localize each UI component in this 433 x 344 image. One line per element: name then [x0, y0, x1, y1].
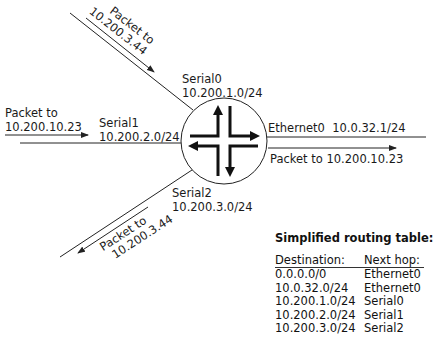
next-hop-cell: Ethernet0: [364, 268, 424, 282]
serial2-label: Serial2 10.200.3.0/24: [172, 186, 253, 214]
table-row: 10.200.1.0/24 Serial0: [275, 295, 424, 309]
routing-table-header: Destination: Next hop:: [275, 254, 424, 268]
serial1-label: Serial1 10.200.2.0/24: [99, 116, 180, 144]
table-row: 10.0.32.0/24 Ethernet0: [275, 282, 424, 296]
router-icon: [181, 98, 267, 184]
next-hop-cell: Ethernet0: [364, 282, 424, 296]
packet-label-left-line1: Packet to: [5, 106, 82, 120]
serial0-name: Serial0: [182, 72, 263, 86]
serial1-network: 10.200.2.0/24: [99, 130, 180, 144]
next-hop-cell: Serial1: [364, 309, 424, 323]
serial0-network: 10.200.1.0/24: [182, 86, 263, 100]
routing-table: Destination: Next hop: 0.0.0.0/0 Etherne…: [275, 254, 424, 336]
next-hop-cell: Serial0: [364, 295, 424, 309]
header-next-hop: Next hop:: [364, 254, 424, 268]
ethernet0-name: Ethernet0: [268, 121, 325, 135]
serial2-network: 10.200.3.0/24: [172, 200, 253, 214]
destination-cell: 10.200.3.0/24: [275, 322, 364, 336]
serial0-label: Serial0 10.200.1.0/24: [182, 72, 263, 100]
serial2-name: Serial2: [172, 186, 253, 200]
destination-cell: 0.0.0.0/0: [275, 268, 364, 282]
serial1-name: Serial1: [99, 116, 180, 130]
header-destination: Destination:: [275, 254, 364, 268]
packet-label-right-text: Packet to 10.200.10.23: [270, 152, 403, 166]
next-hop-cell: Serial2: [364, 322, 424, 336]
ethernet0-address: 10.0.32.1/24: [332, 121, 405, 135]
packet-label-right: Packet to 10.200.10.23: [270, 152, 403, 166]
routing-table-title: Simplified routing table:: [275, 231, 433, 245]
destination-cell: 10.200.2.0/24: [275, 309, 364, 323]
table-row: 0.0.0.0/0 Ethernet0: [275, 268, 424, 282]
table-row: 10.200.2.0/24 Serial1: [275, 309, 424, 323]
packet-label-left: Packet to 10.200.10.23: [5, 106, 82, 134]
destination-cell: 10.0.32.0/24: [275, 282, 364, 296]
packet-label-left-line2: 10.200.10.23: [5, 120, 82, 134]
ethernet0-label: Ethernet0 10.0.32.1/24: [268, 121, 406, 135]
table-row: 10.200.3.0/24 Serial2: [275, 322, 424, 336]
destination-cell: 10.200.1.0/24: [275, 295, 364, 309]
